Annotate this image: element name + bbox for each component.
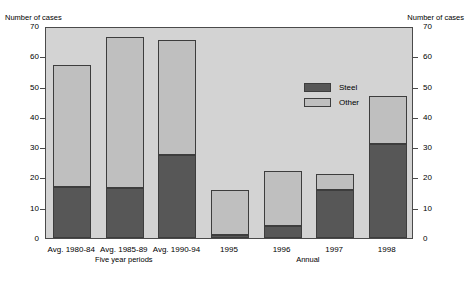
bar-avg-1985-89 — [106, 26, 144, 238]
bar-1995 — [211, 26, 249, 238]
y-tick-mark-right-10 — [413, 209, 418, 210]
bar-1998 — [369, 26, 407, 238]
y-tick-label-right-30: 30 — [423, 144, 441, 152]
y-tick-mark-right-40 — [413, 118, 418, 119]
y-axis-title-right: Number of cases — [407, 13, 464, 22]
bar-segment-steel — [211, 235, 249, 238]
bar-segment-other — [211, 190, 249, 235]
chart-legend: Steel Other — [304, 81, 359, 111]
y-tick-label-right-20: 20 — [423, 174, 441, 182]
y-tick-mark-left-60 — [40, 57, 45, 58]
bar-avg-1980-84 — [53, 26, 91, 238]
legend-label-steel: Steel — [339, 83, 357, 92]
bar-segment-other — [316, 174, 354, 189]
plot-area: Steel Other — [45, 27, 413, 239]
bar-segment-other — [53, 65, 91, 186]
legend-item-other: Other — [304, 96, 359, 108]
y-tick-mark-left-40 — [40, 118, 45, 119]
bar-segment-other — [264, 171, 302, 226]
x-axis-label-1995: 1995 — [220, 245, 238, 254]
y-tick-label-left-70: 70 — [21, 23, 39, 31]
y-tick-mark-right-60 — [413, 57, 418, 58]
y-tick-label-left-10: 10 — [21, 205, 39, 213]
bar-segment-steel — [53, 187, 91, 238]
legend-label-other: Other — [339, 98, 359, 107]
y-tick-label-right-40: 40 — [423, 114, 441, 122]
x-axis-label-1997: 1997 — [325, 245, 343, 254]
bar-segment-other — [369, 96, 407, 144]
x-axis-label-1996: 1996 — [273, 245, 291, 254]
y-tick-label-left-60: 60 — [21, 53, 39, 61]
y-tick-label-right-70: 70 — [423, 23, 441, 31]
bar-1996 — [264, 26, 302, 238]
bar-segment-other — [158, 40, 196, 155]
bar-segment-steel — [369, 144, 407, 238]
y-tick-label-left-20: 20 — [21, 174, 39, 182]
y-tick-mark-left-10 — [40, 209, 45, 210]
legend-swatch-steel — [304, 83, 331, 92]
bar-segment-steel — [106, 188, 144, 238]
x-axis-group-label-annual: Annual — [296, 255, 319, 264]
x-axis-label-avg-1990-94: Avg. 1990-94 — [153, 245, 200, 254]
y-tick-mark-left-50 — [40, 88, 45, 89]
y-axis-title-left: Number of cases — [5, 13, 62, 22]
y-tick-label-left-40: 40 — [21, 114, 39, 122]
y-tick-mark-right-20 — [413, 178, 418, 179]
x-axis-label-1998: 1998 — [378, 245, 396, 254]
y-tick-mark-right-50 — [413, 88, 418, 89]
y-tick-label-left-30: 30 — [21, 144, 39, 152]
y-tick-label-right-50: 50 — [423, 84, 441, 92]
legend-swatch-other — [304, 98, 331, 107]
y-tick-label-right-0: 0 — [423, 235, 441, 243]
x-axis-label-avg-1985-89: Avg. 1985-89 — [100, 245, 147, 254]
bar-segment-steel — [158, 155, 196, 238]
y-tick-mark-left-30 — [40, 148, 45, 149]
y-tick-label-left-50: 50 — [21, 84, 39, 92]
legend-item-steel: Steel — [304, 81, 359, 93]
y-tick-mark-left-20 — [40, 178, 45, 179]
y-tick-mark-right-30 — [413, 148, 418, 149]
bar-segment-other — [106, 37, 144, 188]
stacked-bar-chart: Number of cases Number of cases Steel Ot… — [0, 0, 469, 289]
x-axis-label-avg-1980-84: Avg. 1980-84 — [48, 245, 95, 254]
y-tick-label-right-10: 10 — [423, 205, 441, 213]
y-tick-label-right-60: 60 — [423, 53, 441, 61]
bar-segment-steel — [316, 190, 354, 238]
bar-1997 — [316, 26, 354, 238]
bar-segment-steel — [264, 226, 302, 238]
x-axis-group-label-five-year-periods: Five year periods — [95, 255, 153, 264]
y-tick-label-left-0: 0 — [21, 235, 39, 243]
bar-avg-1990-94 — [158, 26, 196, 238]
